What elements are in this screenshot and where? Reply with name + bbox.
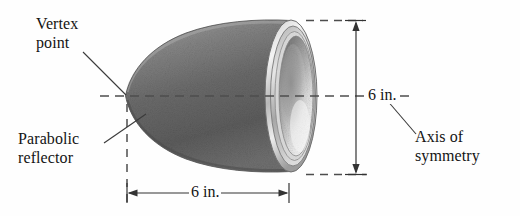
axis-of-symmetry-label: Axis of symmetry xyxy=(415,127,480,165)
vertex-leader-line xyxy=(83,52,126,95)
height-dimension-label: 6 in. xyxy=(366,86,398,104)
vertex-point-label: Vertex point xyxy=(36,14,78,52)
height-dimension xyxy=(345,21,366,175)
bowl-highlight xyxy=(290,100,310,152)
parabolic-reflector-figure: Vertex point Parabolic reflector Axis of… xyxy=(0,0,520,216)
reflector-leader-line xyxy=(104,114,146,143)
depth-dimension-label: 6 in. xyxy=(189,183,221,201)
parabolic-reflector-label: Parabolic reflector xyxy=(18,129,79,167)
height-dim-arrow-down xyxy=(352,164,359,174)
depth-dim-arrow-right xyxy=(279,189,289,196)
height-dim-arrow-up xyxy=(352,21,359,31)
axis-leader-line xyxy=(386,99,416,134)
depth-dim-arrow-left xyxy=(128,189,138,196)
